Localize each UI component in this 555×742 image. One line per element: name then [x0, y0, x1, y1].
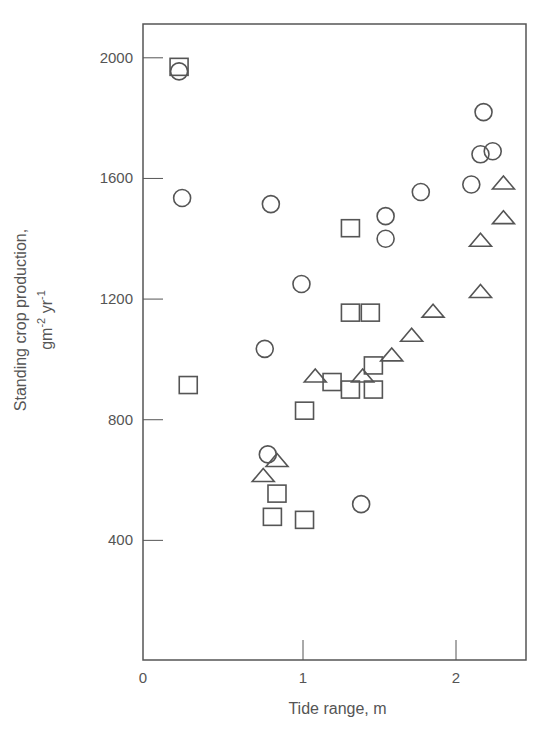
y-axis-label-line1: Standing crop production,: [11, 229, 31, 411]
triangle-marker: [492, 211, 514, 224]
data-points: [170, 58, 514, 528]
y-axis-ticks: 400800120016002000: [100, 49, 163, 549]
square-marker: [263, 508, 281, 525]
square-marker: [341, 220, 359, 237]
square-marker: [341, 381, 359, 398]
square-marker: [268, 485, 286, 502]
square-marker: [341, 304, 359, 321]
y-tick-label: 800: [108, 411, 133, 428]
square-marker: [296, 402, 314, 419]
y-axis-label-container: Standing crop production, gm-2 yr-1: [6, 100, 62, 540]
circle-marker: [174, 190, 191, 207]
circle-marker: [171, 63, 188, 80]
square-marker: [179, 377, 197, 394]
x-axis-label: Tide range, m: [0, 700, 555, 718]
triangle-marker: [352, 369, 374, 382]
triangle-marker: [381, 348, 403, 361]
triangle-marker: [422, 304, 444, 317]
y-tick-label: 1600: [100, 169, 133, 186]
circle-marker: [463, 176, 480, 193]
y-unit-gm: gm: [38, 328, 55, 350]
scatter-chart: 400800120016002000 012: [0, 0, 555, 742]
y-unit-yr: yr: [38, 300, 55, 318]
triangle-marker: [401, 328, 423, 341]
y-tick-label: 1200: [100, 290, 133, 307]
square-marker: [296, 511, 314, 528]
y-tick-label: 2000: [100, 49, 133, 66]
circle-marker: [475, 104, 492, 121]
circle-marker: [472, 146, 489, 163]
x-axis-ticks: 012: [139, 640, 460, 686]
circle-marker: [412, 184, 429, 201]
y-axis-label-line2: gm-2 yr-1: [31, 229, 56, 411]
triangle-marker: [469, 285, 491, 298]
x-tick-label: 1: [299, 669, 307, 686]
circle-marker: [259, 446, 276, 463]
circle-marker: [377, 230, 394, 247]
circle-marker: [262, 196, 279, 213]
square-marker: [361, 304, 379, 321]
circle-marker: [293, 276, 310, 293]
circle-marker: [484, 143, 501, 160]
triangle-marker: [469, 233, 491, 246]
y-unit-exp1: -2: [35, 318, 47, 328]
x-tick-label: 0: [139, 669, 147, 686]
plot-frame: [143, 24, 526, 660]
circle-marker: [256, 340, 273, 357]
triangle-marker: [252, 469, 274, 482]
y-unit-exp2: -1: [35, 290, 47, 300]
circle-marker: [353, 496, 370, 513]
x-tick-label: 2: [452, 669, 460, 686]
triangle-marker: [492, 176, 514, 189]
square-marker: [364, 357, 382, 374]
square-marker: [364, 381, 382, 398]
circle-marker: [377, 208, 394, 225]
y-axis-label: Standing crop production, gm-2 yr-1: [11, 229, 56, 411]
y-tick-label: 400: [108, 531, 133, 548]
